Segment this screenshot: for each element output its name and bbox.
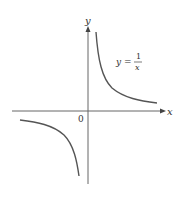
origin-label: 0 (78, 114, 84, 124)
x-axis-label: x (167, 106, 173, 117)
curve-negative-branch (20, 120, 79, 176)
equation-numerator: 1 (136, 52, 141, 61)
y-axis-label: y (84, 15, 91, 26)
equation-lhs: y = (115, 57, 132, 67)
hyperbola-chart: y x 0 y = 1 x (0, 0, 180, 199)
curve-positive-branch (96, 32, 157, 103)
y-axis-arrow-icon (86, 26, 91, 32)
equation-denominator: x (135, 63, 140, 72)
x-axis-arrow-icon (160, 109, 166, 114)
